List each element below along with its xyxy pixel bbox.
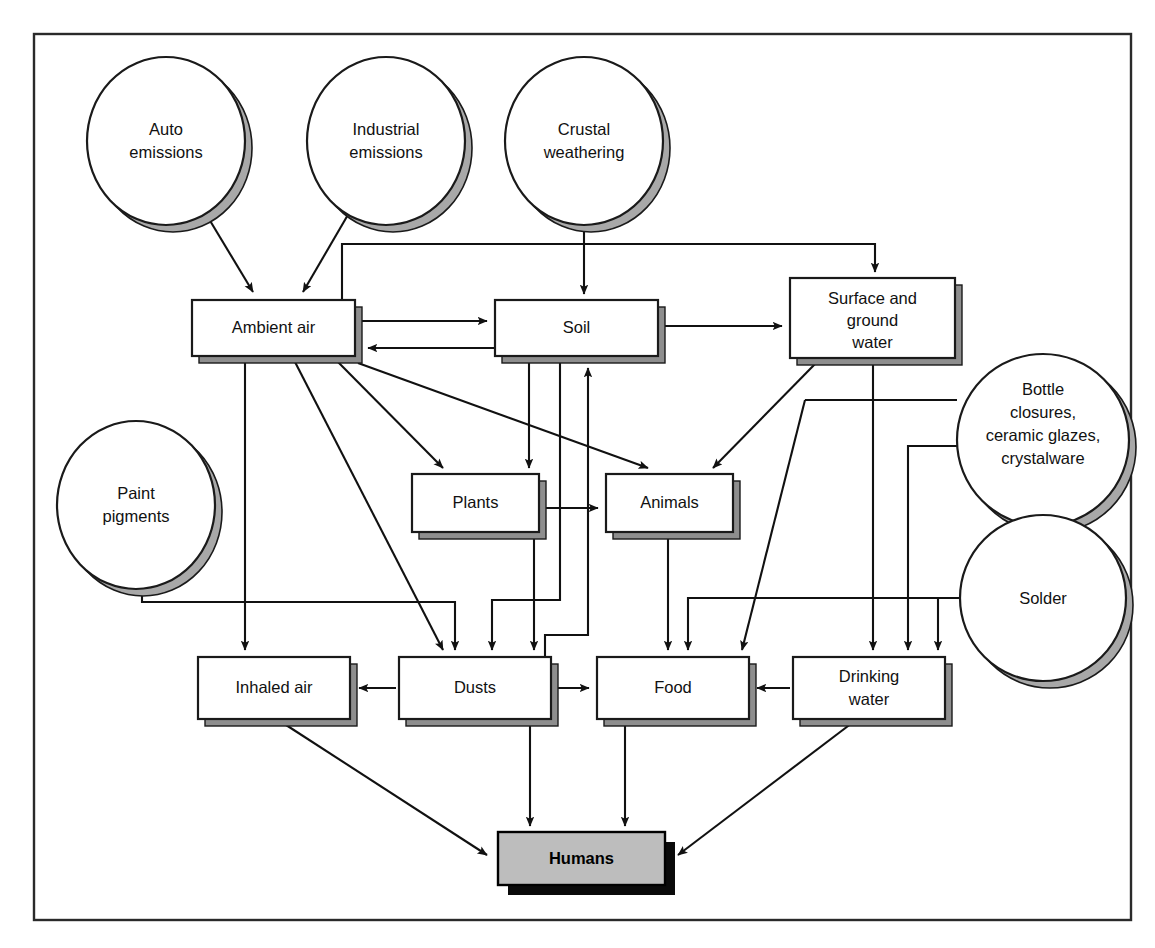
bottle-closures-label-line-3: ceramic glazes, (986, 426, 1101, 444)
node-paint-pigments[interactable]: Paint pigments (57, 421, 222, 596)
dusts-label: Dusts (454, 678, 496, 696)
node-animals[interactable]: Animals (606, 474, 740, 539)
drinking-water-label-line-2: water (848, 690, 890, 708)
edge-bottle-closures-to-drinking-water (908, 446, 957, 650)
edge-dusts-to-soil (545, 368, 588, 657)
food-label: Food (654, 678, 692, 696)
humans-label: Humans (549, 849, 614, 867)
node-industrial-emissions[interactable]: Industrial emissions (307, 57, 472, 232)
edge-solder-to-drinking-water (938, 598, 960, 650)
node-ambient-air[interactable]: Ambient air (192, 300, 362, 363)
paint-pigments-label-line-2: pigments (103, 507, 170, 525)
node-surface-ground-water[interactable]: Surface and ground water (790, 278, 962, 365)
node-crustal-weathering[interactable]: Crustal weathering (505, 57, 670, 232)
plants-label: Plants (453, 493, 499, 511)
crustal-weathering-label-line-1: Crustal (558, 120, 610, 138)
auto-emissions-circle (87, 57, 245, 225)
auto-emissions-label-line-1: Auto (149, 120, 183, 138)
industrial-emissions-circle (307, 57, 465, 225)
ambient-air-label: Ambient air (232, 318, 316, 336)
edge-ambient-air-to-plants (338, 362, 443, 468)
node-soil[interactable]: Soil (495, 300, 665, 363)
solder-label: Solder (1019, 589, 1067, 607)
node-food[interactable]: Food (597, 657, 756, 726)
edge-inhaled-air-to-humans (283, 723, 487, 855)
edge-auto-to-ambient-air (206, 214, 253, 292)
node-humans[interactable]: Humans (498, 832, 675, 895)
industrial-emissions-label-line-2: emissions (349, 143, 422, 161)
bottle-closures-label-line-2: closures, (1010, 403, 1076, 421)
edge-drinking-water-to-humans (678, 723, 852, 855)
node-drinking-water[interactable]: Drinking water (793, 657, 952, 726)
edge-solder-bus-to-food (688, 598, 960, 650)
edge-paint-pigments-to-dusts (142, 582, 455, 650)
animals-label: Animals (640, 493, 699, 511)
edge-surface-ground-water-to-food (742, 400, 805, 650)
bottle-closures-label-line-1: Bottle (1022, 380, 1064, 398)
diagram-canvas: Auto emissions Industrial emissions Crus… (0, 0, 1155, 948)
drinking-water-label-line-1: Drinking (839, 667, 900, 685)
surface-ground-water-label-line-2: ground (847, 311, 898, 329)
crustal-weathering-circle (505, 57, 663, 225)
edge-ambient-air-to-animals (358, 363, 648, 468)
auto-emissions-label-line-2: emissions (129, 143, 202, 161)
paint-pigments-circle (57, 421, 215, 589)
surface-ground-water-label-line-1: Surface and (828, 289, 917, 307)
inhaled-air-label: Inhaled air (235, 678, 313, 696)
compartment-nodes: Ambient air Soil Surface and ground wate… (192, 278, 962, 726)
drinking-water-box (793, 657, 945, 719)
node-solder[interactable]: Solder (960, 515, 1133, 688)
industrial-emissions-label-line-1: Industrial (353, 120, 420, 138)
node-plants[interactable]: Plants (412, 474, 546, 539)
soil-label: Soil (563, 318, 591, 336)
edge-surface-ground-water-to-animals (713, 364, 815, 468)
node-bottle-closures[interactable]: Bottle closures, ceramic glazes, crystal… (957, 354, 1136, 533)
source-nodes: Auto emissions Industrial emissions Crus… (57, 57, 1136, 688)
exposure-pathway-diagram: Auto emissions Industrial emissions Crus… (0, 0, 1155, 948)
paint-pigments-label-line-1: Paint (117, 484, 155, 502)
bottle-closures-label-line-4: crystalware (1001, 449, 1084, 467)
crustal-weathering-label-line-2: weathering (543, 143, 625, 161)
node-inhaled-air[interactable]: Inhaled air (198, 657, 357, 726)
node-dusts[interactable]: Dusts (399, 657, 558, 726)
surface-ground-water-label-line-3: water (851, 333, 893, 351)
node-auto-emissions[interactable]: Auto emissions (87, 57, 252, 232)
